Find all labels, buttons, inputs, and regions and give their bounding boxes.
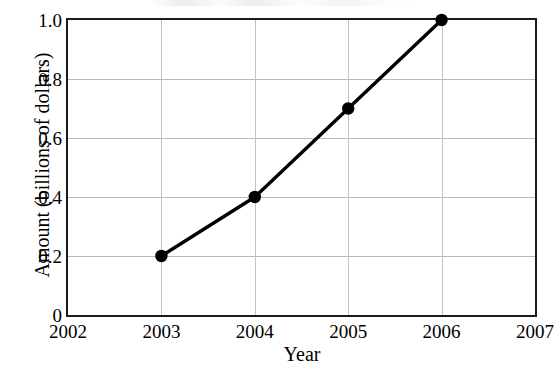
x-tick-label: 2004	[215, 321, 295, 342]
x-tick-label: 2006	[402, 321, 482, 342]
x-tick-label: 2003	[121, 321, 201, 342]
x-tick-label: 2005	[308, 321, 388, 342]
x-axis-tick-labels: 200220032004200520062007	[0, 0, 560, 370]
x-tick-label: 2007	[495, 321, 560, 342]
line-chart: Amount (billions of dollars) 00.20.40.60…	[0, 0, 560, 370]
x-axis-title: Year	[66, 342, 538, 366]
x-tick-label: 2002	[28, 321, 108, 342]
